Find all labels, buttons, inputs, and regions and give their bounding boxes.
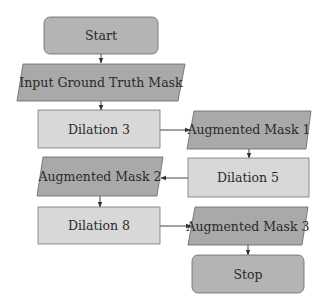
- node-input-ground-truth-mask: Input Ground Truth Mask: [17, 64, 185, 101]
- node-label: Dilation 3: [68, 122, 130, 137]
- node-label: Augmented Mask 1: [187, 122, 311, 137]
- node-start: Start: [44, 17, 158, 54]
- node-augmented-mask-3: Augmented Mask 3: [186, 207, 310, 245]
- node-augmented-mask-1: Augmented Mask 1: [187, 111, 311, 149]
- node-label: Augmented Mask 2: [38, 169, 162, 184]
- node-label: Input Ground Truth Mask: [19, 75, 183, 90]
- node-dilation-5: Dilation 5: [188, 158, 309, 197]
- node-augmented-mask-2: Augmented Mask 2: [37, 157, 163, 196]
- node-label: Dilation 5: [217, 170, 279, 185]
- node-label: Start: [85, 28, 117, 43]
- node-label: Augmented Mask 3: [186, 219, 310, 234]
- node-stop: Stop: [192, 255, 304, 293]
- node-label: Stop: [233, 267, 262, 282]
- node-label: Dilation 8: [68, 218, 130, 233]
- flowchart: Start Input Ground Truth Mask Dilation 3…: [0, 0, 325, 307]
- node-dilation-3: Dilation 3: [38, 110, 160, 148]
- node-dilation-8: Dilation 8: [38, 207, 160, 244]
